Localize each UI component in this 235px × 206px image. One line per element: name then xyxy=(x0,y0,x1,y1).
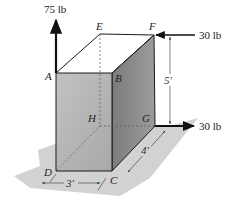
dimension-width-label: 3′ xyxy=(65,177,75,189)
front-face xyxy=(56,73,112,171)
point-label-g: G xyxy=(142,112,150,124)
box-diagram: 75 lb 30 lb 30 lb 5′ 3′ 4′ A B C D E F G… xyxy=(0,0,235,206)
point-label-e: E xyxy=(95,20,103,32)
point-label-d: D xyxy=(43,166,52,178)
point-label-c: C xyxy=(110,174,118,186)
force-label-bottom: 30 lb xyxy=(199,120,222,132)
dimension-depth-label: 4′ xyxy=(141,144,150,156)
point-label-a: A xyxy=(44,70,52,82)
point-label-f: F xyxy=(148,20,156,32)
point-label-b: B xyxy=(115,72,122,84)
force-label-top: 30 lb xyxy=(199,29,222,41)
dimension-height-label: 5′ xyxy=(164,74,173,86)
point-label-h: H xyxy=(87,112,97,124)
force-label-vertical: 75 lb xyxy=(44,3,67,15)
